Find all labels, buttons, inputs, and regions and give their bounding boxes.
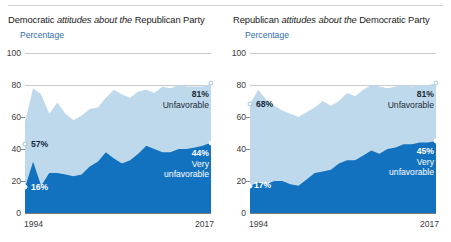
- panel-title-right-part1: Republican: [233, 14, 281, 25]
- start-value-very-unfavorable-right: 17%: [254, 180, 271, 190]
- end-annotation-unfavorable-right: 81% Unfavorable: [388, 89, 434, 110]
- y-tick-40-right: 40: [236, 144, 246, 154]
- y-tick-80-right: 80: [236, 80, 246, 90]
- end-marker-very-unfavorable-right: [434, 139, 439, 144]
- start-value-very-unfavorable-left: 16%: [31, 182, 48, 192]
- y-tick-0-left: 0: [16, 208, 21, 218]
- y-tick-80-left: 80: [11, 80, 21, 90]
- y-tick-60-right: 60: [236, 112, 246, 122]
- panel-title-left-emphasis: attitudes about the: [57, 14, 132, 25]
- area-chart-svg-right: [250, 53, 436, 213]
- end-name-very-unfavorable-left-line2: unfavorable: [164, 169, 209, 180]
- end-annotation-very-unfavorable-right: 45% Very unfavorable: [389, 146, 434, 178]
- panel-democratic-attitudes: Democratic attitudes about the Republica…: [0, 0, 225, 242]
- y-axis-unit-label-left: Percentage: [20, 30, 64, 40]
- chart-panels-container: Democratic attitudes about the Republica…: [0, 0, 451, 242]
- panel-title-left: Democratic attitudes about the Republica…: [8, 14, 223, 25]
- end-value-unfavorable-left: 81%: [163, 89, 209, 100]
- end-marker-unfavorable-left: [209, 81, 214, 86]
- end-name-unfavorable-left: Unfavorable: [163, 100, 209, 111]
- panel-title-right-emphasis: attitudes about the: [281, 14, 356, 25]
- y-tick-20-right: 20: [236, 176, 246, 186]
- end-name-very-unfavorable-right-line2: unfavorable: [389, 167, 434, 178]
- end-value-unfavorable-right: 81%: [388, 89, 434, 100]
- panel-title-right-part2: Democratic Party: [357, 14, 430, 25]
- area-chart-svg-left: [25, 53, 211, 213]
- y-axis-unit-label-right: Percentage: [245, 30, 289, 40]
- y-tick-0-right: 0: [241, 208, 246, 218]
- start-value-unfavorable-right: 68%: [256, 99, 273, 109]
- end-annotation-unfavorable-left: 81% Unfavorable: [163, 89, 209, 110]
- end-name-very-unfavorable-right-line1: Very: [389, 157, 434, 168]
- panel-title-left-part1: Democratic: [8, 14, 57, 25]
- panel-republican-attitudes: Republican attitudes about the Democrati…: [225, 0, 450, 242]
- plot-area-right: 100 80 60 40 20 0 68% 17% 81% Unfavorabl…: [250, 53, 436, 213]
- x-axis-baseline-left: [25, 213, 211, 214]
- end-value-very-unfavorable-right: 45%: [389, 146, 434, 157]
- end-name-unfavorable-right: Unfavorable: [388, 100, 434, 111]
- end-name-very-unfavorable-left-line1: Very: [164, 159, 209, 170]
- y-tick-20-left: 20: [11, 176, 21, 186]
- plot-area-left: 100 80 60 40 20 0 57% 16% 81% Unfavorabl…: [25, 53, 211, 213]
- y-tick-60-left: 60: [11, 112, 21, 122]
- x-tick-end-left: 2017: [195, 219, 214, 229]
- start-marker-unfavorable-right: [248, 102, 253, 107]
- start-value-unfavorable-left: 57%: [31, 139, 48, 149]
- panel-title-right: Republican attitudes about the Democrati…: [233, 14, 448, 25]
- end-marker-unfavorable-right: [434, 81, 439, 86]
- y-tick-100-right: 100: [232, 48, 246, 58]
- start-marker-very-unfavorable-right: [248, 183, 253, 188]
- end-marker-very-unfavorable-left: [209, 140, 214, 145]
- x-tick-start-right: 1994: [249, 219, 268, 229]
- x-tick-start-left: 1994: [24, 219, 43, 229]
- x-axis-baseline-right: [250, 213, 436, 214]
- end-value-very-unfavorable-left: 44%: [164, 148, 209, 159]
- x-tick-end-right: 2017: [420, 219, 439, 229]
- panel-title-left-part2: Republican Party: [132, 14, 204, 25]
- y-tick-40-left: 40: [11, 144, 21, 154]
- end-annotation-very-unfavorable-left: 44% Very unfavorable: [164, 148, 209, 180]
- start-marker-unfavorable-left: [23, 142, 28, 147]
- y-tick-100-left: 100: [7, 48, 21, 58]
- start-marker-very-unfavorable-left: [23, 185, 28, 190]
